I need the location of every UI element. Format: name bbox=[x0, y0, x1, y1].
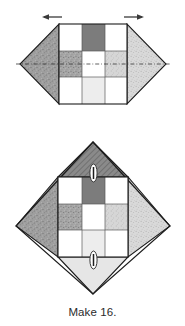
cell-r1c3 bbox=[105, 24, 127, 51]
press-arrow-left bbox=[42, 14, 62, 19]
cell-r1c3 bbox=[105, 177, 128, 204]
diagram-page: Make 16. bbox=[0, 0, 185, 326]
pin-marker-bottom bbox=[90, 251, 97, 269]
cell-r2c1 bbox=[58, 204, 82, 230]
cell-r2c2 bbox=[82, 204, 105, 230]
cell-r3c1 bbox=[59, 77, 82, 104]
cell-r1c2 bbox=[82, 24, 105, 51]
cell-r3c2 bbox=[82, 77, 105, 104]
press-arrow-right bbox=[124, 14, 144, 19]
pin-marker-top bbox=[90, 164, 97, 182]
figure-caption: Make 16. bbox=[0, 306, 185, 318]
cell-r1c1 bbox=[58, 177, 82, 204]
cell-r3c3 bbox=[105, 230, 128, 257]
nine-patch-grid-bottom bbox=[58, 177, 128, 257]
figure-unit-on-point-complete bbox=[0, 130, 185, 306]
figure-unit-flat-with-side-flaps bbox=[0, 0, 185, 130]
cell-r1c1 bbox=[59, 24, 82, 51]
cell-r3c3 bbox=[105, 77, 127, 104]
cell-r3c1 bbox=[58, 230, 82, 257]
cell-r2c3 bbox=[105, 204, 128, 230]
